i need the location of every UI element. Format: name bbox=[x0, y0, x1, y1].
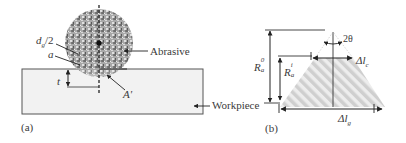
panel-a-caption: (a) bbox=[21, 122, 33, 133]
grain-center-dot bbox=[96, 40, 101, 45]
cone-side-left bbox=[315, 32, 333, 58]
dlg-label: Δlg bbox=[338, 113, 351, 127]
angle-2theta-label: 2θ bbox=[343, 34, 353, 44]
ra0-label: R0a bbox=[254, 61, 267, 73]
depth-t-label: t bbox=[57, 76, 60, 87]
workpiece-block bbox=[22, 69, 203, 114]
panel-b bbox=[264, 30, 385, 113]
a-label: a bbox=[48, 49, 54, 60]
abrasive-label: Abrasive bbox=[150, 46, 190, 57]
panel-b-caption: (b) bbox=[265, 123, 278, 134]
dlc-label: Δlc bbox=[356, 55, 369, 69]
workpiece-label: Workpiece bbox=[212, 100, 259, 111]
rai-label: Ria bbox=[284, 66, 297, 78]
contact-area-label: A' bbox=[123, 89, 132, 100]
